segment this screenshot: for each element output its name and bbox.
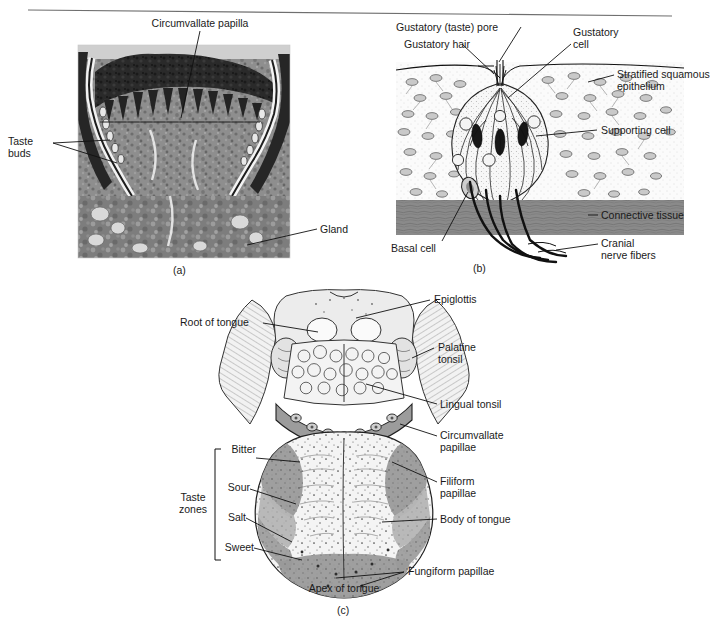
label-epiglottis: Epiglottis [434,294,477,306]
label-gland: Gland [320,224,348,236]
label-root-of-tongue: Root of tongue [180,317,249,329]
label-circumvallate-papilla: Circumvallate papilla [118,18,282,30]
label-zone-bitter: Bitter [212,444,256,456]
vallecula-left [307,318,337,342]
label-gustatory-taste-pore: Gustatory (taste) pore [396,22,498,34]
micrograph-image [78,45,290,258]
tongue-diagram [219,290,469,600]
label-stratified-squamous-epithelium: Stratified squamous epithelium [617,69,710,92]
vallecula-right [351,318,381,342]
label-circumvallate-papillae: Circumvallate papillae [440,430,504,453]
label-gustatory-hair: Gustatory hair [404,39,470,51]
panel-caption-c: (c) [337,604,349,616]
label-palatine-tonsil: Palatine tonsil [438,342,476,365]
label-connective-tissue: Connective tissue [601,210,684,222]
panel-caption-a: (a) [173,264,186,276]
label-supporting-cell: Supporting cell [601,125,670,137]
label-lingual-tonsil: Lingual tonsil [440,399,501,411]
label-basal-cell: Basal cell [391,243,436,255]
label-fungiform-papillae: Fungiform papillae [408,566,494,578]
top-divider-rule [28,10,672,16]
label-taste-buds: Taste buds [8,136,33,159]
panel-caption-b: (b) [473,262,486,274]
label-zone-sour: Sour [206,482,250,494]
label-zone-salt: Salt [202,512,246,524]
label-apex-of-tongue: Apex of tongue [268,583,420,595]
label-gustatory-cell: Gustatory cell [573,27,619,50]
label-body-of-tongue: Body of tongue [440,514,511,526]
label-cranial-nerve-fibers: Cranial nerve fibers [601,238,656,261]
label-filiform-papillae: Filiform papillae [440,476,476,499]
label-zone-sweet: Sweet [204,542,254,554]
